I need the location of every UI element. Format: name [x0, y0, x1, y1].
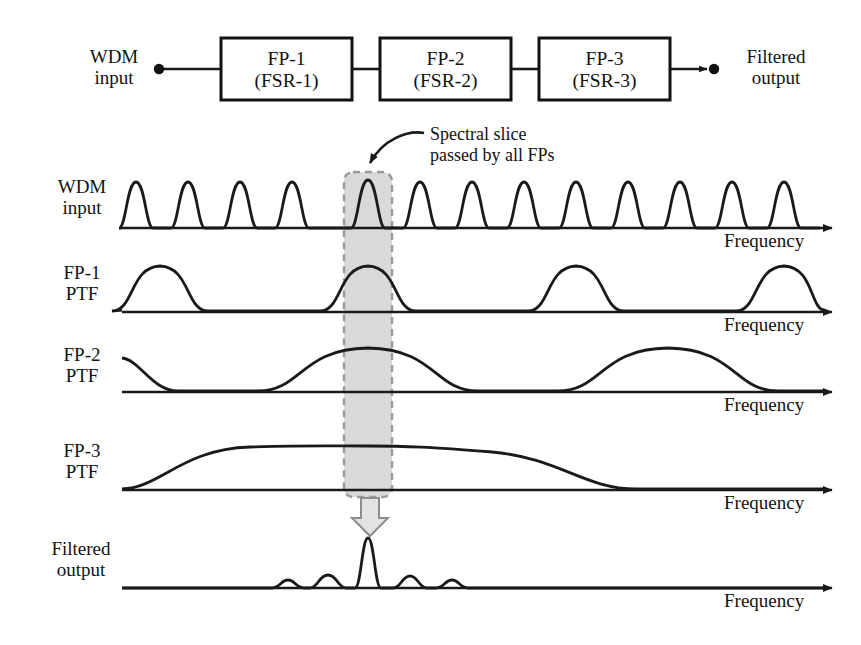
row-label-fp3-ptf: FP-3 PTF: [34, 440, 130, 483]
row-wdm-input-plot: [119, 180, 832, 228]
spectral-slice-callout: Spectral slice passed by all FPs: [430, 124, 650, 166]
axis-label-frequency-fp3: Frequency: [724, 492, 804, 514]
block-input-label: WDM input: [72, 46, 156, 89]
callout-arrow: [370, 132, 424, 163]
figure-canvas: WDM input Filtered output FP-1 (FSR-1) F…: [0, 0, 861, 645]
axis-label-frequency-output: Frequency: [724, 590, 804, 612]
axis-label-frequency-fp2: Frequency: [724, 394, 804, 416]
filtered-output-curve: [122, 538, 826, 588]
row-fp2-ptf-plot: [122, 348, 832, 392]
row-filtered-output-plot: [122, 538, 832, 588]
row-label-wdm-input: WDM input: [34, 176, 130, 219]
block-output-label: Filtered output: [726, 46, 826, 89]
row-label-filtered-output: Filtered output: [26, 538, 136, 581]
axis-label-frequency-fp1: Frequency: [724, 314, 804, 336]
row-label-fp2-ptf: FP-2 PTF: [34, 344, 130, 387]
fp2-ptf-curve: [122, 348, 826, 391]
row-fp3-ptf-plot: [122, 446, 832, 490]
spectral-slice-band: [344, 172, 392, 497]
fp3-block-label: FP-3 (FSR-3): [539, 48, 670, 93]
axis-label-frequency-wdm: Frequency: [724, 230, 804, 252]
fp2-block-label: FP-2 (FSR-2): [380, 48, 511, 93]
row-fp1-ptf-plot: [112, 266, 832, 312]
fp1-block-label: FP-1 (FSR-1): [221, 48, 352, 93]
row-label-fp1-ptf: FP-1 PTF: [34, 262, 130, 305]
fp1-ptf-curve: [112, 266, 826, 311]
output-terminal-dot: [709, 64, 719, 74]
fp3-ptf-curve: [122, 446, 826, 489]
wdm-input-curve: [119, 180, 820, 228]
down-block-arrow: [352, 498, 388, 536]
